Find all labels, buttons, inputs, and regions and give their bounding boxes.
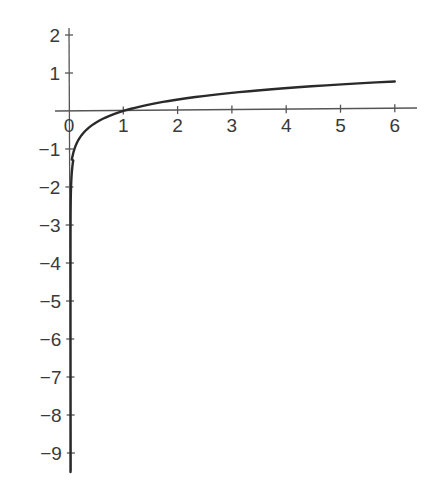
y-tick-label: −6 <box>40 329 62 350</box>
x-tick-label: 3 <box>227 115 238 136</box>
y-tick-label: 1 <box>49 63 60 84</box>
y-tick-label: 2 <box>49 25 60 46</box>
x-axis <box>55 108 417 111</box>
y-tick-label: −3 <box>39 215 61 236</box>
log-function-chart: 012345621−1−2−3−4−5−6−7−8−9 <box>0 0 432 482</box>
y-tick-label: −2 <box>39 177 61 198</box>
tick-labels: 012345621−1−2−3−4−5−6−7−8−9 <box>39 25 401 464</box>
y-tick-label: −5 <box>39 291 61 312</box>
y-tick-label: −4 <box>39 253 61 274</box>
x-tick-label: 6 <box>390 115 401 136</box>
y-tick-label: −1 <box>39 139 61 160</box>
log-curve <box>71 81 395 472</box>
x-tick-label: 0 <box>64 115 75 136</box>
x-tick-label: 1 <box>118 115 129 136</box>
x-tick-label: 2 <box>172 115 183 136</box>
y-tick-label: −8 <box>40 405 62 426</box>
x-tick-label: 5 <box>335 115 346 136</box>
axes <box>55 28 417 471</box>
y-tick-label: −9 <box>40 443 62 464</box>
tick-marks <box>65 35 395 453</box>
x-tick-label: 4 <box>281 115 292 136</box>
y-tick-label: −7 <box>40 367 62 388</box>
